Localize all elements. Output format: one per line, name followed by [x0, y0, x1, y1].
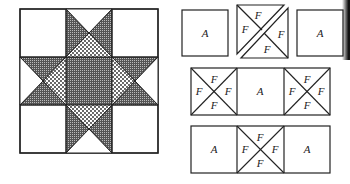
- label-a: A: [256, 85, 264, 97]
- label-f: F: [303, 73, 311, 85]
- label-f: F: [254, 9, 262, 21]
- pieces-row-2: F F F F A F F F F: [191, 68, 330, 115]
- label-a: A: [210, 143, 218, 155]
- label-f: F: [303, 99, 311, 111]
- label-a: A: [316, 27, 324, 39]
- label-a: A: [303, 143, 311, 155]
- label-a: A: [201, 27, 209, 39]
- label-f: F: [256, 131, 264, 143]
- label-f: F: [277, 28, 285, 40]
- label-f: F: [288, 85, 296, 97]
- label-f: F: [210, 73, 218, 85]
- edge-shadow: [342, 0, 350, 60]
- label-f: F: [210, 99, 218, 111]
- center-square: [66, 57, 112, 105]
- ohio-star-block: [20, 9, 158, 153]
- pieces-row-1: A F F F F A: [182, 5, 343, 58]
- label-f: F: [256, 157, 264, 169]
- quilt-diagram: A F F F F A F F F F A F F F F: [0, 0, 350, 184]
- label-f: F: [317, 85, 325, 97]
- label-f: F: [241, 23, 249, 35]
- label-f: F: [271, 143, 279, 155]
- label-f: F: [195, 85, 203, 97]
- label-f: F: [241, 143, 249, 155]
- pieces-row-3: A F F F F A: [191, 126, 330, 173]
- label-f: F: [263, 43, 271, 55]
- label-f: F: [224, 85, 232, 97]
